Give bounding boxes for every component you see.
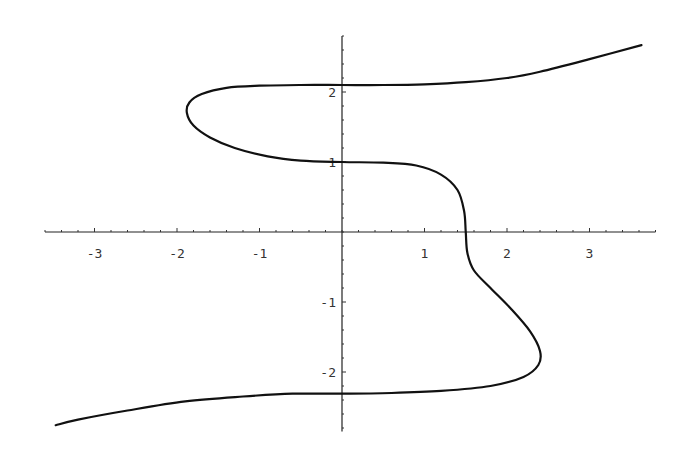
- chart-plot: -3-2-1123-2-112: [0, 0, 695, 467]
- x-tick-label: -1: [252, 246, 268, 261]
- y-tick-label: -1: [320, 295, 336, 310]
- x-tick-label: 1: [421, 246, 429, 261]
- x-tick-label: 3: [586, 246, 594, 261]
- curve-series: [56, 45, 642, 425]
- axes: [45, 36, 656, 432]
- y-tick-label: 2: [328, 85, 336, 100]
- x-tick-label: -2: [169, 246, 185, 261]
- y-tick-label: -2: [320, 365, 336, 380]
- x-tick-label: -3: [87, 246, 103, 261]
- x-tick-label: 2: [503, 246, 511, 261]
